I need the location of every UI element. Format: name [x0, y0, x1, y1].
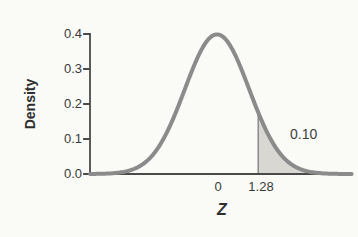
y-tick-label: 0.2 — [46, 97, 82, 110]
axes — [84, 34, 352, 174]
y-tick-label: 0.4 — [46, 27, 82, 40]
normal-density-curve — [90, 34, 351, 174]
y-tick-label: 0.0 — [46, 167, 82, 180]
x-axis-title: Z — [202, 202, 242, 218]
x-tick-label-zero: 0 — [208, 180, 228, 193]
y-tick-label: 0.3 — [46, 62, 82, 75]
x-tick-label-critical-value: 1.28 — [241, 180, 281, 193]
tail-area-label: 0.10 — [290, 127, 330, 141]
normal-distribution-figure: Density 0.4 0.3 0.2 0.1 0.0 0 1.28 Z 0.1… — [0, 0, 358, 237]
y-axis-title: Density — [22, 48, 38, 160]
y-tick-label: 0.1 — [46, 132, 82, 145]
